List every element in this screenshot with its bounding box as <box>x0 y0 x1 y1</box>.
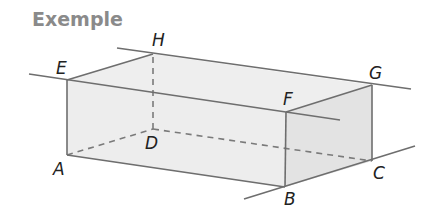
vertex-label-C: C <box>373 163 385 183</box>
vertex-label-E: E <box>56 58 67 78</box>
vertex-label-A: A <box>52 159 65 179</box>
rectangular-prism-diagram: E H G F A D B C <box>0 0 441 208</box>
vertex-label-G: G <box>369 63 382 83</box>
vertex-label-B: B <box>284 189 296 208</box>
edge-BF <box>285 112 286 187</box>
vertex-label-H: H <box>152 30 165 50</box>
vertex-label-F: F <box>283 89 293 109</box>
vertex-label-D: D <box>145 133 158 153</box>
